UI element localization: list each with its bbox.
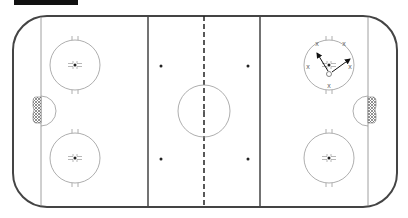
neutral-dot [247,158,250,161]
neutral-dot [247,65,250,68]
faceoff-dot [74,157,77,160]
neutral-dot [160,65,163,68]
faceoff-dot [328,157,331,160]
cone-marker: x [348,63,352,70]
center-dot [203,110,205,112]
cone-marker: x [342,40,346,47]
neutral-dot [160,158,163,161]
rink-boards [13,16,397,207]
cone-marker: x [315,40,319,47]
right-goal-net [368,97,376,123]
left-goal-net [33,97,41,123]
cone-marker: x [306,63,310,70]
faceoff-dot [74,64,77,67]
cone-marker: x [327,82,331,89]
faceoff-dot [328,64,331,67]
player-marker-icon [327,72,332,77]
hockey-rink: x x x x x [0,0,408,218]
